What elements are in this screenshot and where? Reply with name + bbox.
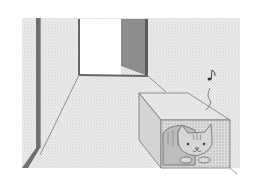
hallway-cat-illustration [0, 0, 253, 184]
door-panel [121, 19, 148, 76]
